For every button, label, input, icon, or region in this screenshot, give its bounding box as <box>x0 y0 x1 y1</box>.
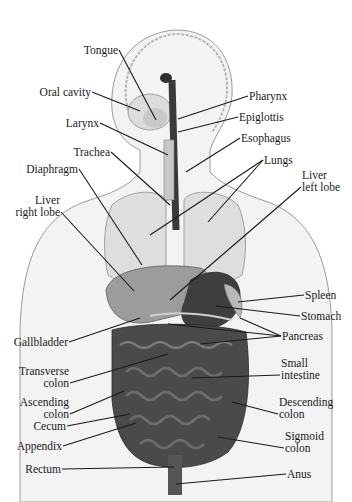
label-text: Spleen <box>305 289 336 301</box>
label-text: Anus <box>287 468 311 480</box>
label-text: Small <box>281 357 320 369</box>
label-text: Ascending <box>20 396 69 408</box>
label-spleen: Spleen <box>305 289 336 301</box>
label-text: colon <box>285 442 324 454</box>
label-small-intestine: Smallintestine <box>281 357 320 381</box>
label-lungs: Lungs <box>264 154 293 166</box>
label-text: colon <box>19 377 69 389</box>
label-text: Lungs <box>264 154 293 166</box>
label-text: Larynx <box>66 117 99 129</box>
label-rectum: Rectum <box>25 463 61 475</box>
label-text: colon <box>20 408 69 420</box>
label-text: Transverse <box>19 365 69 377</box>
label-ascending-colon: Ascendingcolon <box>20 396 69 420</box>
label-text: Stomach <box>301 310 341 322</box>
label-trachea: Trachea <box>73 146 110 158</box>
label-liver-right-lobe: Liverright lobe <box>16 194 60 218</box>
label-tongue: Tongue <box>84 44 118 56</box>
label-text: Trachea <box>73 146 110 158</box>
label-cecum: Cecum <box>33 420 66 432</box>
label-text: Diaphragm <box>26 163 78 175</box>
label-text: left lobe <box>302 181 340 193</box>
label-pancreas: Pancreas <box>282 330 323 342</box>
label-liver-left-lobe: Liverleft lobe <box>302 169 340 193</box>
label-sigmoid-colon: Sigmoidcolon <box>285 430 324 454</box>
label-text: Cecum <box>33 420 66 432</box>
label-appendix: Appendix <box>17 440 62 452</box>
label-diaphragm: Diaphragm <box>26 163 78 175</box>
label-gallbladder: Gallbladder <box>14 336 68 348</box>
label-text: Esophagus <box>241 132 291 144</box>
label-pharynx: Pharynx <box>249 90 287 102</box>
digestive-system-figure: TongueOral cavityLarynxTracheaDiaphragmL… <box>0 0 352 502</box>
label-descending-colon: Descendingcolon <box>279 396 333 420</box>
label-oral-cavity: Oral cavity <box>40 86 91 98</box>
label-larynx: Larynx <box>66 117 99 129</box>
label-anus: Anus <box>287 468 311 480</box>
label-epiglottis: Epiglottis <box>239 111 284 123</box>
label-text: Liver <box>302 169 340 181</box>
label-text: Pancreas <box>282 330 323 342</box>
label-text: Sigmoid <box>285 430 324 442</box>
label-esophagus: Esophagus <box>241 132 291 144</box>
label-text: colon <box>279 408 333 420</box>
label-stomach: Stomach <box>301 310 341 322</box>
label-text: Oral cavity <box>40 86 91 98</box>
label-text: Epiglottis <box>239 111 284 123</box>
label-transverse-colon: Transversecolon <box>19 365 69 389</box>
label-text: intestine <box>281 369 320 381</box>
label-text: Rectum <box>25 463 61 475</box>
label-text: right lobe <box>16 206 60 218</box>
label-text: Gallbladder <box>14 336 68 348</box>
label-text: Appendix <box>17 440 62 452</box>
label-text: Liver <box>16 194 60 206</box>
label-text: Tongue <box>84 44 118 56</box>
label-text: Descending <box>279 396 333 408</box>
label-text: Pharynx <box>249 90 287 102</box>
